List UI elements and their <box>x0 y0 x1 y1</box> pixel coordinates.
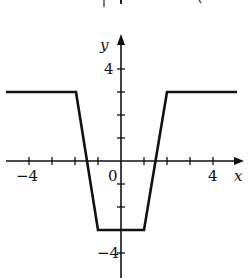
x-tick-label-neg4: −4 <box>16 167 38 185</box>
cropped-text-remnant <box>104 0 201 7</box>
x-tick-label-0: 0 <box>108 167 118 185</box>
y-tick-label-4: 4 <box>104 60 114 78</box>
x-axis-label: x <box>234 167 243 185</box>
x-axis-arrow-icon <box>234 157 244 165</box>
y-axis-arrow-icon <box>117 34 125 45</box>
x-axis <box>6 157 244 165</box>
x-tick-label-4: 4 <box>208 167 218 185</box>
y-axis-label: y <box>99 36 109 54</box>
y-tick-label-neg4: −4 <box>97 244 119 262</box>
y-axis <box>117 34 125 278</box>
function-graph: y 4 −4 −4 0 4 x <box>0 0 252 278</box>
